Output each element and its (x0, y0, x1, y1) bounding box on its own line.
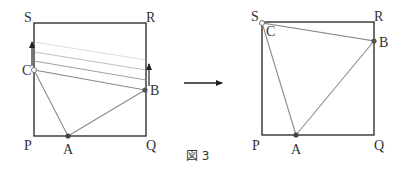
label-p-right: P (252, 139, 260, 153)
point-b-right (371, 38, 376, 43)
point-a-right (293, 132, 298, 137)
motion-line-3 (34, 61, 146, 80)
label-r-left: R (146, 11, 155, 25)
label-s-left: S (24, 11, 32, 25)
motion-line-1 (34, 42, 146, 60)
figure-canvas (0, 0, 407, 169)
label-r-right: R (374, 10, 383, 24)
label-a-right: A (291, 143, 301, 157)
label-q-right: Q (374, 139, 384, 153)
point-c-right (260, 21, 265, 26)
motion-line-2 (34, 52, 146, 70)
label-c-left: C (22, 64, 31, 78)
label-p-left: P (24, 139, 32, 153)
figure-caption: 図 3 (186, 150, 209, 162)
point-b (142, 87, 147, 92)
point-c (32, 68, 37, 73)
label-q-left: Q (146, 139, 156, 153)
right-panel (260, 21, 377, 138)
left-triangle (34, 70, 145, 136)
label-a-left: A (63, 143, 73, 157)
left-square (34, 23, 146, 136)
left-panel (32, 23, 150, 139)
label-s-right: S (251, 10, 259, 24)
label-b-left: B (150, 84, 159, 98)
label-c-right: C (266, 25, 275, 39)
right-triangle (262, 23, 374, 135)
point-a (65, 133, 70, 138)
label-b-right: B (379, 36, 388, 50)
